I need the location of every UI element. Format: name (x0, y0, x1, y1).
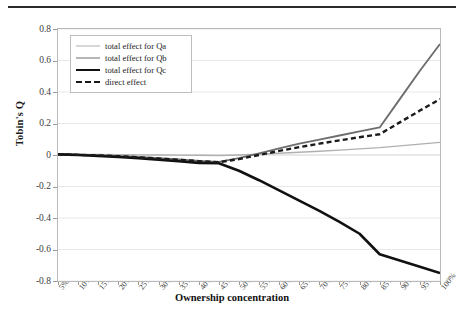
legend-label: total effect for Qc (105, 65, 166, 75)
legend-item: total effect for Qb (75, 52, 186, 64)
x-axis-tick-label: 100% (439, 271, 458, 291)
series-line (58, 142, 440, 155)
legend-item: total effect for Qa (75, 40, 186, 52)
y-axis-tick-label: -0.6 (17, 244, 51, 254)
header-rule (8, 6, 456, 8)
legend-label: total effect for Qb (105, 53, 167, 63)
legend-swatch-icon (75, 53, 101, 63)
y-axis-tick-label: 0.8 (17, 24, 51, 34)
y-axis-title: Tobin's Q (14, 64, 25, 184)
legend-swatch-icon (75, 65, 101, 75)
legend-line-sample (76, 69, 100, 71)
y-axis-tick-label: -0.8 (17, 276, 51, 286)
y-axis-tick-label: -0.4 (17, 213, 51, 223)
chart-figure: Tobin's Q Ownership concentration 0.80.6… (0, 0, 464, 318)
chart-legend: total effect for Qatotal effect for Qbto… (70, 35, 192, 93)
legend-swatch-icon (75, 41, 101, 51)
legend-line-sample (76, 81, 100, 83)
legend-item: total effect for Qc (75, 64, 186, 76)
legend-swatch-icon (75, 77, 101, 87)
legend-item: direct effect (75, 76, 186, 88)
legend-line-sample (76, 46, 100, 47)
x-axis-title: Ownership concentration (0, 292, 464, 303)
legend-label: total effect for Qa (105, 41, 166, 51)
series-line (58, 154, 440, 273)
series-line (58, 99, 440, 162)
legend-line-sample (76, 58, 100, 59)
legend-label: direct effect (105, 77, 146, 87)
